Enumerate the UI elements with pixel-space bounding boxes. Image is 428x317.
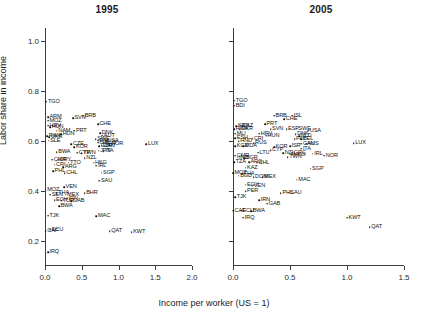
data-point-label: HUN	[63, 132, 75, 138]
x-tick-label: 1.0	[113, 273, 124, 282]
data-point-label: SGP	[312, 166, 324, 172]
y-tick	[229, 91, 233, 92]
data-point-label: BWA	[60, 204, 72, 210]
x-tick-label: 0.0	[227, 273, 238, 282]
x-tick	[404, 266, 405, 270]
y-tick	[229, 41, 233, 42]
data-point-label: SLE	[50, 138, 60, 144]
data-point-label: QAT	[111, 228, 122, 234]
data-point-label: BRB	[85, 113, 96, 119]
y-tick	[229, 241, 233, 242]
y-tick-label: 0.4	[7, 186, 39, 195]
data-point-label: NOR	[326, 153, 338, 159]
plot-area-1995: 0.20.40.60.81.00.00.51.01.52.0TGOARMMOZH…	[45, 28, 192, 266]
data-point-label: BGD	[240, 173, 252, 179]
data-point-label: LTU	[260, 150, 270, 156]
data-point-label: KWT	[349, 215, 361, 221]
x-tick	[119, 266, 120, 270]
y-tick-label: 0.6	[7, 136, 39, 145]
x-tick	[82, 266, 83, 270]
panel-title-2005: 2005	[214, 4, 428, 15]
data-point-label: CHE	[99, 122, 111, 128]
data-point-label: TGO	[48, 99, 60, 105]
x-tick-label: 0.0	[39, 273, 50, 282]
y-tick	[41, 141, 45, 142]
x-tick	[347, 266, 348, 270]
data-point-label: PRT	[76, 128, 87, 134]
data-point-label: BWA	[58, 149, 70, 155]
y-tick-label: 0.2	[7, 236, 39, 245]
data-point-label: MAC	[98, 214, 110, 220]
data-point-label: SAU	[290, 190, 301, 196]
x-axis-line	[233, 265, 404, 266]
data-point-label: CHE	[286, 117, 298, 123]
data-point-label: IRL	[314, 151, 322, 157]
data-point-label: GAB	[73, 199, 85, 205]
x-tick	[155, 266, 156, 270]
data-point-label: LUX	[148, 142, 159, 148]
data-point-label: MEX	[264, 174, 276, 180]
y-tick	[41, 41, 45, 42]
x-tick	[233, 266, 234, 270]
y-tick	[229, 191, 233, 192]
x-tick-label: 2.0	[186, 273, 197, 282]
x-tick	[45, 266, 46, 270]
y-tick	[41, 91, 45, 92]
data-point-label: SGP	[103, 170, 115, 176]
plot-area-2005: 0.00.51.01.5TGOBDIBRBISLCHEPRTKENKAZRWAU…	[233, 28, 404, 266]
data-point-label: HUN	[268, 133, 280, 139]
data-point-label: LUX	[355, 140, 366, 146]
y-tick-label: 0.8	[7, 86, 39, 95]
y-tick	[41, 191, 45, 192]
data-point-label: KWT	[133, 229, 145, 235]
data-point-label: IRL	[98, 163, 106, 169]
data-point-label: PER	[247, 189, 258, 195]
data-point-label: TWN	[289, 154, 301, 160]
data-point-label: MDA	[245, 143, 257, 149]
x-tick-label: 0.5	[76, 273, 87, 282]
data-point-label: IRQ	[49, 249, 59, 255]
y-tick-label: 1.0	[7, 36, 39, 45]
data-point-label: CHL	[66, 171, 77, 177]
x-tick	[290, 266, 291, 270]
data-point-label: TJK	[49, 213, 59, 219]
data-point-label: ECU	[52, 227, 64, 233]
scatter-figure: Labor share in income Income per worker …	[0, 0, 428, 317]
data-point-label: IRQ	[245, 215, 255, 221]
y-tick	[41, 241, 45, 242]
data-point-label: ITA	[105, 148, 113, 154]
panel-1995: 1995 0.20.40.60.81.00.00.51.01.52.0TGOAR…	[0, 0, 214, 317]
x-tick-label: 1.5	[150, 273, 161, 282]
x-tick-label: 0.5	[284, 273, 295, 282]
y-tick	[229, 141, 233, 142]
data-point-label: TJK	[237, 194, 247, 200]
x-tick-label: 1.5	[398, 273, 409, 282]
data-point-label: SAU	[101, 178, 112, 184]
panel-title-1995: 1995	[0, 4, 214, 15]
data-point-label: QAT	[371, 224, 382, 230]
x-tick-label: 1.0	[341, 273, 352, 282]
data-point-label: GAB	[269, 201, 281, 207]
data-point-label: BDI	[236, 103, 245, 109]
panel-2005: 2005 0.00.51.01.5TGOBDIBRBISLCHEPRTKENKA…	[214, 0, 428, 317]
data-point-label: TZA	[236, 159, 246, 165]
x-tick	[192, 266, 193, 270]
data-point-label: MAC	[298, 177, 310, 183]
data-point-label: BHR	[86, 191, 98, 197]
